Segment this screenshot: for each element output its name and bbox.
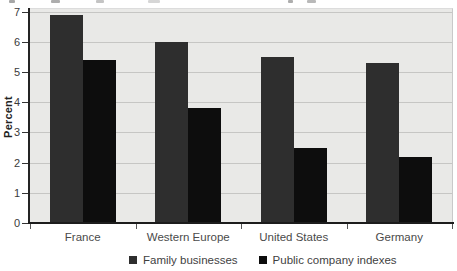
- legend-item-public-company-indexes: Public company indexes: [259, 254, 397, 266]
- cropped-title-remnant: [148, 0, 160, 3]
- y-axis-tick-label: 4: [2, 95, 20, 109]
- bar-family-businesses-france: [50, 15, 83, 223]
- x-axis-label: France: [30, 230, 136, 244]
- cropped-title-remnant: [51, 0, 60, 3]
- y-axis-tick-label: 7: [2, 5, 20, 19]
- y-axis-tick-label: 1: [2, 186, 20, 200]
- cropped-title-remnant: [9, 0, 15, 3]
- bar-public-company-indexes-france: [83, 60, 116, 223]
- x-axis-label: United States: [241, 230, 347, 244]
- y-axis-tick-label: 3: [2, 125, 20, 139]
- bar-chart-figure: Percent 01234567FranceWestern EuropeUnit…: [0, 0, 457, 271]
- y-axis-tick-label: 0: [2, 216, 20, 230]
- legend-label-public-company-indexes: Public company indexes: [273, 254, 397, 266]
- x-axis-tick: [241, 224, 242, 229]
- x-axis-tick: [30, 224, 31, 229]
- legend-item-family-businesses: Family businesses: [129, 254, 238, 266]
- bar-public-company-indexes-western-europe: [188, 108, 221, 223]
- cropped-title-remnant: [288, 0, 293, 3]
- x-axis-tick: [136, 224, 137, 229]
- legend-swatch-family-businesses: [129, 256, 137, 264]
- legend: Family businesses Public company indexes: [129, 253, 397, 267]
- x-axis-line: [28, 222, 454, 224]
- y-axis-tick-label: 2: [2, 156, 20, 170]
- bar-public-company-indexes-united-states: [294, 148, 327, 224]
- cropped-title-remnant: [307, 0, 316, 3]
- gridline: [30, 42, 452, 43]
- bar-public-company-indexes-germany: [399, 157, 432, 223]
- x-axis-label: Western Europe: [136, 230, 242, 244]
- y-axis-line: [28, 8, 30, 223]
- gridline: [30, 12, 452, 13]
- y-axis-tick-label: 5: [2, 65, 20, 79]
- legend-label-family-businesses: Family businesses: [143, 254, 238, 266]
- bar-family-businesses-western-europe: [155, 42, 188, 223]
- y-axis-tick-label: 6: [2, 35, 20, 49]
- x-axis-label: Germany: [347, 230, 453, 244]
- x-axis-tick: [452, 224, 453, 229]
- x-axis-tick: [347, 224, 348, 229]
- cropped-title-remnant: [96, 0, 104, 3]
- bar-family-businesses-united-states: [261, 57, 294, 223]
- legend-swatch-public-company-indexes: [259, 256, 267, 264]
- bar-family-businesses-germany: [366, 63, 399, 223]
